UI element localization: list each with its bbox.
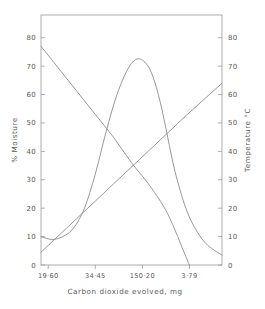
y-tick-label: 30 [26, 176, 36, 184]
x-tick-label: 19·60 [38, 272, 59, 280]
y2-tick-label: 80 [228, 34, 238, 42]
y2-tick-label: 30 [228, 176, 238, 184]
y-tick-label: 40 [26, 148, 36, 156]
y2-tick-label: 40 [228, 148, 238, 156]
chart-line [41, 46, 189, 265]
y-tick-label: 60 [26, 91, 36, 99]
bottom-axis-ticks [48, 265, 189, 269]
y2-tick-label: 0 [228, 262, 233, 270]
y2-tick-label: 60 [228, 91, 238, 99]
y-tick-label: 80 [26, 34, 36, 42]
y-tick-label: 20 [26, 205, 36, 213]
y-tick-label: 70 [26, 63, 36, 71]
y-tick-label: 50 [26, 119, 36, 127]
y-axis-title: % Moisture [10, 117, 19, 163]
x-tick-label: 150·20 [130, 272, 155, 280]
chart-series-group [41, 46, 222, 265]
x-axis-title: Carbon dioxide evolved, mg [67, 287, 182, 296]
chart-figure: 01020304050607080 01020304050607080 19·6… [0, 0, 265, 309]
x-tick-label: 3·79 [181, 272, 197, 280]
right-axis-ticks [218, 38, 222, 265]
y2-axis-title: Temperature °C [243, 108, 252, 173]
y2-tick-label: 70 [228, 63, 238, 71]
bottom-axis-tick-labels: 19·6034·45150·203·79 [38, 272, 198, 280]
y2-tick-label: 10 [228, 233, 238, 241]
y-tick-label: 0 [31, 262, 36, 270]
x-tick-label: 34·45 [85, 272, 106, 280]
chart-svg: 01020304050607080 01020304050607080 19·6… [0, 0, 265, 309]
chart-line [41, 59, 222, 255]
right-axis-tick-labels: 01020304050607080 [228, 34, 238, 269]
y2-tick-label: 20 [228, 205, 238, 213]
left-axis-tick-labels: 01020304050607080 [26, 34, 36, 269]
y-tick-label: 10 [26, 233, 36, 241]
left-axis-ticks [41, 38, 45, 265]
y2-tick-label: 50 [228, 119, 238, 127]
